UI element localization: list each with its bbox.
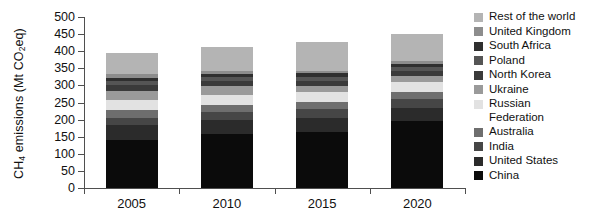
y-axis-tick — [78, 51, 84, 52]
legend-swatch-icon — [474, 157, 483, 166]
bar-segment-united-kingdom — [391, 61, 443, 63]
legend-item[interactable]: United Kingdom — [474, 25, 596, 39]
bar-segment-united-states — [106, 125, 158, 140]
bar-segment-australia — [201, 105, 253, 113]
bar-segment-south-africa — [296, 73, 348, 76]
x-axis-label-2010: 2010 — [212, 196, 241, 211]
y-axis-tick-label: 250 — [54, 96, 75, 110]
y-axis-tick-label: 200 — [54, 113, 75, 127]
bar-segment-south-africa — [106, 78, 158, 81]
bar-segment-china — [106, 140, 158, 188]
bar-segment-india — [296, 109, 348, 117]
legend-swatch-icon — [474, 27, 483, 36]
bar-segment-china — [391, 121, 443, 188]
legend-swatch-icon — [474, 85, 483, 94]
bar-segment-south-africa — [201, 74, 253, 77]
bar-segment-north-korea — [201, 81, 253, 86]
x-axis-label-2005: 2005 — [117, 196, 146, 211]
bar-segment-russian-federation — [296, 92, 348, 102]
bar-segment-poland — [106, 81, 158, 85]
legend-swatch-icon — [474, 142, 483, 151]
bar-segment-australia — [106, 110, 158, 118]
y-axis-tick-label: 0 — [68, 181, 75, 195]
bar-segment-north-korea — [106, 85, 158, 90]
legend-swatch-icon — [474, 171, 483, 180]
legend-item[interactable]: Ukraine — [474, 83, 596, 97]
legend-label: United Kingdom — [489, 25, 571, 39]
legend-item[interactable]: India — [474, 140, 596, 154]
legend-label: India — [489, 140, 514, 154]
legend-swatch-icon — [474, 42, 483, 51]
bar-segment-united-states — [201, 120, 253, 134]
x-axis-tick — [275, 188, 276, 194]
stacked-bar-2020 — [391, 34, 443, 188]
legend-item[interactable]: North Korea — [474, 68, 596, 82]
bar-segment-rest-of-the-world — [201, 47, 253, 71]
bar-segment-north-korea — [391, 71, 443, 76]
bar-segment-ukraine — [296, 86, 348, 92]
bar-segment-russian-federation — [106, 100, 158, 110]
bar-segment-united-kingdom — [106, 74, 158, 77]
bar-segment-india — [391, 99, 443, 108]
stacked-bar-2005 — [106, 53, 158, 188]
bar-segment-poland — [201, 77, 253, 81]
legend-label: South Africa — [489, 39, 551, 53]
plot-area: 050100150200250300350400450500 200520102… — [84, 17, 465, 188]
y-axis-tick — [78, 171, 84, 172]
chart-legend: Rest of the worldUnited KingdomSouth Afr… — [474, 10, 596, 183]
legend-swatch-icon — [474, 71, 483, 80]
legend-item[interactable]: Rest of the world — [474, 10, 596, 24]
y-axis-tick-label: 100 — [54, 147, 75, 161]
legend-item[interactable]: Poland — [474, 54, 596, 68]
bar-segment-poland — [296, 77, 348, 81]
y-axis-title: CH4 emissions (Mt CO2eq) — [12, 14, 27, 194]
y-axis-tick-label: 50 — [61, 164, 75, 178]
stacked-bar-2015 — [296, 42, 348, 188]
bar-segment-australia — [391, 92, 443, 99]
bar-segment-united-kingdom — [201, 71, 253, 74]
bar-segment-ukraine — [201, 86, 253, 94]
y-axis-title-text: CH4 emissions (Mt CO2eq) — [12, 28, 26, 179]
chart-figure: CH4 emissions (Mt CO2eq) 050100150200250… — [0, 0, 596, 222]
bar-segment-north-korea — [296, 81, 348, 86]
y-axis-tick-label: 350 — [54, 61, 75, 75]
y-axis-tick — [78, 85, 84, 86]
legend-item[interactable]: South Africa — [474, 39, 596, 53]
x-axis-tick — [179, 188, 180, 194]
bar-segment-ukraine — [106, 91, 158, 100]
y-axis-tick-label: 300 — [54, 78, 75, 92]
legend-item[interactable]: Russian Federation — [474, 97, 596, 124]
legend-item[interactable]: United States — [474, 154, 596, 168]
legend-item[interactable]: China — [474, 169, 596, 183]
bar-segment-india — [201, 112, 253, 120]
bar-segment-united-states — [391, 108, 443, 121]
x-axis-label-2015: 2015 — [308, 196, 337, 211]
legend-swatch-icon — [474, 100, 483, 109]
legend-label: China — [489, 169, 519, 183]
y-axis-tick-label: 150 — [54, 130, 75, 144]
bar-segment-united-states — [296, 118, 348, 132]
legend-label: Russian Federation — [489, 97, 544, 124]
legend-item[interactable]: Australia — [474, 125, 596, 139]
y-axis-tick — [78, 17, 84, 18]
x-axis-tick — [84, 188, 85, 194]
bar-segment-ukraine — [391, 76, 443, 82]
legend-swatch-icon — [474, 13, 483, 22]
legend-label: Ukraine — [489, 83, 529, 97]
bar-segment-poland — [391, 67, 443, 71]
bar-segment-united-kingdom — [296, 71, 348, 73]
x-axis-tick — [370, 188, 371, 194]
y-axis-tick-label: 500 — [54, 10, 75, 24]
bar-segment-australia — [296, 102, 348, 109]
bar-segment-rest-of-the-world — [391, 34, 443, 61]
y-axis-tick-label: 450 — [54, 27, 75, 41]
legend-label: Australia — [489, 125, 534, 139]
y-axis-tick-label: 400 — [54, 44, 75, 58]
legend-label: Rest of the world — [489, 10, 575, 24]
bar-segment-rest-of-the-world — [296, 42, 348, 71]
x-axis-tick — [465, 188, 466, 194]
legend-label: North Korea — [489, 68, 551, 82]
x-axis-label-2020: 2020 — [403, 196, 432, 211]
stacked-bar-2010 — [201, 47, 253, 188]
legend-swatch-icon — [474, 56, 483, 65]
